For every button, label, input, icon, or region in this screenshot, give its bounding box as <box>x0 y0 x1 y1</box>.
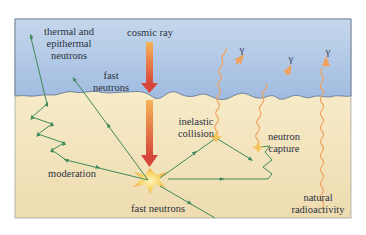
gamma-label-2: γ <box>288 52 294 64</box>
label-natural-1: natural <box>303 192 332 203</box>
neutron-diagram: cosmic ray thermal and epithermal neutro… <box>0 0 366 235</box>
label-thermal-3: neutrons <box>51 50 87 61</box>
label-fast-bottom: fast neutrons <box>131 203 185 214</box>
label-inelastic-2: collision <box>178 128 215 139</box>
label-cosmic-ray: cosmic ray <box>127 27 174 38</box>
label-capture-1: neutron <box>268 131 301 142</box>
gamma-label-1: γ <box>239 43 245 55</box>
label-fast-top-2: neutrons <box>93 82 129 93</box>
label-natural-2: radioactivity <box>291 204 345 215</box>
label-moderation: moderation <box>48 168 97 179</box>
label-fast-top-1: fast <box>103 70 118 81</box>
label-thermal-2: epithermal <box>47 38 92 49</box>
gamma-label-3: γ <box>325 45 331 57</box>
label-inelastic-1: inelastic <box>179 116 214 127</box>
label-capture-2: capture <box>269 143 300 154</box>
label-thermal-1: thermal and <box>44 26 95 37</box>
